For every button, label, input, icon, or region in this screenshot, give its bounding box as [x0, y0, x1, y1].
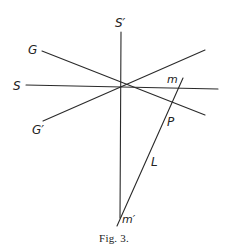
label-g: G	[28, 43, 37, 57]
label-m: m	[167, 73, 178, 86]
label-l: L	[151, 155, 158, 169]
figure-3: S′ G S G′ m P L m′ Fig. 3.	[0, 0, 228, 246]
l-line	[117, 78, 183, 226]
label-g-prime: G′	[32, 123, 44, 137]
s-prime-axis-line	[120, 32, 121, 218]
label-s: S	[13, 79, 21, 93]
label-s-prime: S′	[115, 16, 126, 30]
label-p: P	[167, 115, 175, 129]
line-diagram: S′ G S G′ m P L m′	[0, 0, 228, 246]
label-m-prime: m′	[122, 213, 136, 226]
s-axis-line	[26, 85, 218, 89]
figure-caption: Fig. 3.	[0, 232, 228, 244]
